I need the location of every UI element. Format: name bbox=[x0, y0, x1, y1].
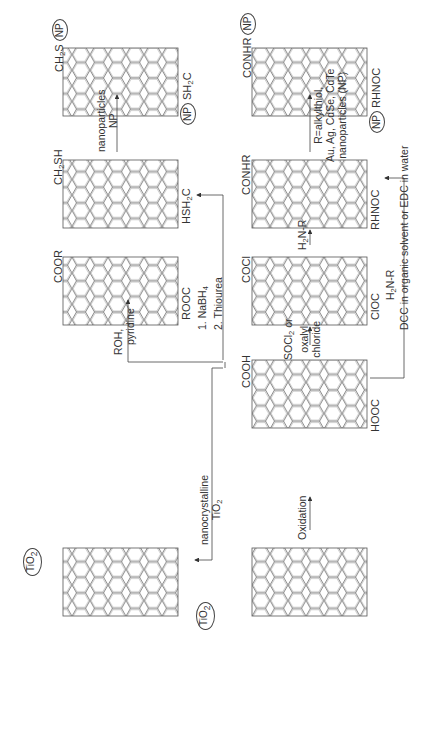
condition-oxidation: Oxidation bbox=[296, 496, 308, 540]
label-rhnoc: RHNOC bbox=[369, 190, 381, 230]
label-cocl: COCl bbox=[240, 256, 252, 283]
cnt-tio2-tube bbox=[63, 548, 178, 616]
cnt-cooh-tube bbox=[252, 360, 367, 428]
tio2-bottom-label: TiO2 bbox=[193, 602, 215, 630]
condition-alkylthiol-np: R=alkylthiol, Au, Ag, CdSe, CdTe nanopar… bbox=[312, 69, 348, 162]
condition-nanoparticles-np: nanoparticles NP bbox=[95, 90, 119, 152]
cnt-cocl-tube bbox=[252, 257, 367, 325]
condition-nabh4-thiourea: 1. NaBH4 2. Thiourea bbox=[196, 277, 224, 330]
label-coor: COOR bbox=[52, 250, 64, 283]
label-cloc: ClOC bbox=[369, 293, 381, 320]
label-hooc: HOOC bbox=[369, 399, 381, 432]
condition-nanocrystalline-tio2: nanocrystalline TiO2 bbox=[198, 475, 226, 545]
diagram-canvas: TiO2 TiO2 nanocrystalline TiO2 ROH, pyri… bbox=[0, 0, 425, 737]
label-hsh2c: HSH2C bbox=[180, 188, 196, 224]
cnt-ch2s-np-tube bbox=[63, 48, 178, 116]
cnt-ch2sh-tube bbox=[63, 160, 178, 228]
condition-h2nr: H2N-R bbox=[296, 220, 312, 250]
cnt-conhr-tube bbox=[252, 160, 367, 228]
label-np-rhnoc: NP RHNOC bbox=[369, 68, 385, 133]
label-cooh: COOH bbox=[240, 355, 252, 388]
label-np-sh2c: NP SH2C bbox=[180, 72, 197, 125]
label-conhr: CONHR bbox=[240, 155, 252, 195]
condition-roh-pyridine: ROH, pyridine bbox=[112, 308, 136, 355]
cnt-pristine-tube bbox=[252, 548, 367, 616]
condition-socl2-oxalyl: SOCl2 or oxalyl chloride bbox=[282, 318, 322, 360]
label-ch2sh: CH2SH bbox=[52, 149, 68, 185]
tio2-top-label: TiO2 bbox=[20, 548, 42, 576]
label-ch2s-np: CH2S NP bbox=[52, 19, 69, 72]
label-conhr-np: CONHR NP bbox=[240, 13, 256, 78]
condition-dcc-edc: DCC in organic solvent or EDC in water bbox=[398, 146, 410, 330]
cnt-conhr-np-tube bbox=[252, 48, 367, 116]
label-rooc: ROOC bbox=[180, 287, 192, 320]
